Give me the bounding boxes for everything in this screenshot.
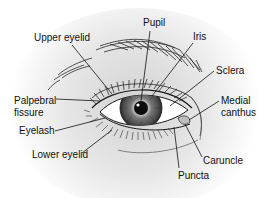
label-puncta: Puncta: [178, 171, 209, 181]
pupil-highlight: [136, 103, 139, 106]
label-lower-eyelid: Lower eyelid: [32, 150, 88, 160]
label-caruncle: Caruncle: [203, 156, 243, 166]
label-eyelash: Eyelash: [19, 126, 55, 136]
label-sclera: Sclera: [216, 66, 244, 76]
label-iris: Iris: [193, 32, 206, 42]
label-medial-canthus: Medial canthus: [221, 95, 256, 119]
eye-anatomy-diagram: Pupil Upper eyelid Iris Sclera Palpebral…: [0, 0, 265, 198]
label-upper-eyelid: Upper eyelid: [34, 33, 90, 43]
pupil-shape: [134, 101, 148, 115]
label-pupil: Pupil: [143, 18, 165, 28]
label-palpebral-fissure: Palpebral fissure: [14, 95, 56, 119]
